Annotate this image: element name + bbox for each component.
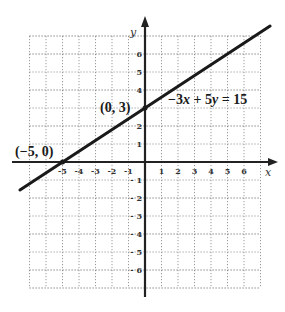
x-tick-label: -4 — [75, 166, 84, 176]
x-tick-label: 4 — [208, 166, 214, 176]
x-tick-label: -3 — [91, 166, 100, 176]
y-tick-label: - 6 — [130, 265, 142, 275]
x-intercept-point — [60, 160, 65, 165]
y-intercept-point — [143, 106, 148, 111]
equation-label: −3x + 5y = 15 — [168, 92, 247, 107]
x-tick-label: 6 — [241, 166, 247, 176]
x-intercept-label: (−5, 0) — [15, 144, 54, 160]
y-tick-label: - 2 — [130, 193, 142, 203]
y-tick-label: - 3 — [130, 211, 142, 221]
x-tick-label: -5 — [58, 166, 67, 176]
y-tick-label: 2 — [136, 121, 142, 131]
y-axis-label: y — [129, 26, 137, 39]
x-axis-arrow-icon — [268, 158, 278, 166]
x-tick-label: -2 — [108, 166, 117, 176]
coordinate-plane-chart: -5-4-3-2-112345665421- 1- 2- 3- 4- 5- 6 … — [0, 0, 285, 312]
x-tick-label: 3 — [192, 166, 198, 176]
eq-prefix: −3 — [168, 92, 183, 107]
y-tick-label: 1 — [136, 139, 142, 149]
x-tick-label: 2 — [175, 166, 181, 176]
y-axis-arrow-icon — [141, 16, 149, 27]
x-axis-label: x — [265, 166, 272, 179]
y-tick-label: 4 — [136, 85, 142, 95]
eq-mid: + 5 — [190, 92, 212, 107]
y-tick-label: - 5 — [130, 247, 142, 257]
y-tick-label: - 4 — [130, 229, 142, 239]
eq-suffix: = 15 — [218, 92, 247, 107]
y-intercept-label: (0, 3) — [100, 100, 131, 116]
x-tick-label: 1 — [159, 166, 165, 176]
y-tick-label: - 1 — [130, 175, 142, 185]
y-tick-label: 5 — [136, 67, 142, 77]
x-tick-label: 5 — [225, 166, 231, 176]
y-tick-label: 6 — [136, 49, 142, 59]
eq-x: x — [182, 92, 190, 107]
